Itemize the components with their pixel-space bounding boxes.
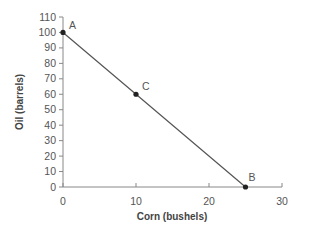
y-tick-label: 90 bbox=[44, 41, 56, 53]
y-tick-label: 110 bbox=[39, 11, 56, 23]
point-a bbox=[60, 30, 65, 35]
x-tick-label: 20 bbox=[203, 195, 215, 207]
y-tick-label: 60 bbox=[44, 88, 56, 100]
y-tick-label: 30 bbox=[44, 134, 56, 146]
x-tick-label: 0 bbox=[60, 195, 66, 207]
x-tick-label: 30 bbox=[276, 195, 288, 207]
x-axis-title: Corn (bushels) bbox=[137, 211, 208, 222]
ppf-chart: 0102030405060708090100110 0102030 ACB Co… bbox=[0, 0, 312, 241]
y-tick-label: 100 bbox=[38, 26, 56, 38]
point-c bbox=[133, 92, 138, 97]
y-tick-label: 80 bbox=[44, 57, 56, 69]
ppf-line bbox=[63, 32, 246, 187]
y-tick-label: 70 bbox=[44, 72, 56, 84]
axes bbox=[63, 17, 282, 187]
y-tick-label: 40 bbox=[44, 119, 56, 131]
point-label-a: A bbox=[69, 19, 76, 31]
point-b bbox=[243, 184, 248, 189]
x-tick-label: 10 bbox=[130, 195, 142, 207]
y-tick-label: 50 bbox=[44, 103, 56, 115]
y-tick-label: 10 bbox=[44, 165, 56, 177]
point-label-b: B bbox=[249, 171, 256, 183]
point-label-c: C bbox=[142, 80, 150, 92]
y-tick-label: 0 bbox=[50, 181, 56, 193]
y-tick-label: 20 bbox=[44, 150, 56, 162]
series-line bbox=[63, 32, 246, 187]
y-axis-title: Oil (barrels) bbox=[14, 74, 25, 130]
y-axis-ticks: 0102030405060708090100110 bbox=[38, 11, 63, 193]
data-points: ACB bbox=[60, 19, 255, 189]
